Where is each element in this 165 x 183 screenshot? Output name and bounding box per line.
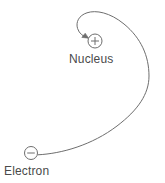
electron-trajectory-path bbox=[38, 12, 149, 155]
nucleus-marker bbox=[88, 34, 102, 48]
trajectory-arrowhead-icon bbox=[82, 33, 89, 38]
electron-label: Electron bbox=[4, 164, 49, 178]
nucleus-label: Nucleus bbox=[69, 52, 113, 66]
diagram-canvas bbox=[0, 0, 165, 183]
electron-marker bbox=[25, 147, 38, 160]
atom-collapse-diagram: Nucleus Electron bbox=[0, 0, 165, 183]
